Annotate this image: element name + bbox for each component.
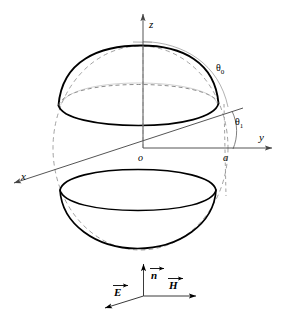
upper-bowl-outer-arc xyxy=(59,46,219,106)
E-vector-label: E xyxy=(114,287,121,298)
lower-hemisphere-bowl xyxy=(60,170,216,249)
E-vector-arrow xyxy=(105,296,144,308)
figure-canvas: z y x o a θ0 θ1 n H E xyxy=(0,0,283,318)
upper-hemisphere-bowl xyxy=(59,46,219,126)
point-a-label: a xyxy=(223,153,228,163)
a-vertical-dashed-line xyxy=(224,104,226,196)
lower-bowl-rim-back-solid xyxy=(60,170,216,191)
theta1-subscript: 1 xyxy=(240,122,244,130)
origin-label: o xyxy=(138,153,143,163)
H-vector-label: H xyxy=(169,280,178,291)
z-axis-label: z xyxy=(149,19,153,30)
upper-bowl-rim-front-solid xyxy=(59,104,219,126)
axes-group xyxy=(14,14,272,183)
theta0-label: θ0 xyxy=(216,63,224,76)
y-axis-label: y xyxy=(259,132,264,143)
upper-bowl-inner-hint xyxy=(61,83,218,106)
lower-bowl-outer-arc xyxy=(60,190,216,249)
x-axis-line xyxy=(14,108,243,183)
theta1-label: θ1 xyxy=(235,117,243,130)
theta0-subscript: 0 xyxy=(221,68,225,76)
n-vector-label: n xyxy=(151,270,157,281)
lower-bowl-rim-front-solid xyxy=(60,190,216,211)
x-axis-label: x xyxy=(21,171,26,182)
radius-marker-a xyxy=(224,104,226,196)
upper-bowl-rim-back-dashed xyxy=(59,85,219,106)
